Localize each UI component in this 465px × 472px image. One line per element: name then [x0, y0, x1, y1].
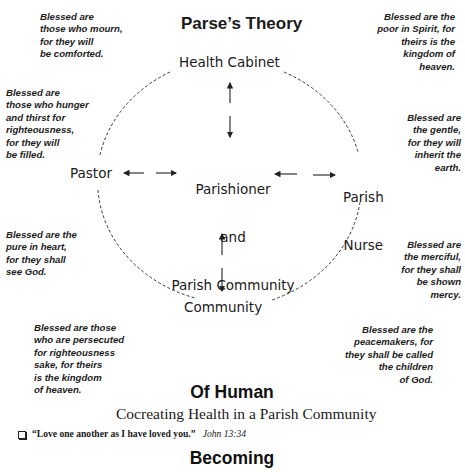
beatitude-poor-in-spirit: Blessed are the poor in Spirit, for thei… — [377, 11, 455, 73]
node-center-line-3: Parish Community — [164, 277, 302, 293]
scripture-quote: “Love one another as I have loved you.” — [32, 428, 195, 439]
beatitude-mourn: Blessed are those who mourn, for they wi… — [40, 11, 123, 61]
node-parish-nurse: Parish Nurse — [343, 157, 384, 269]
beatitude-merciful: Blessed are the merciful, for they shall… — [401, 239, 461, 301]
beatitude-peacemakers: Blessed are the peacemakers, for they sh… — [345, 324, 433, 386]
scripture-quote-row: “Love one another as I have loved you.” … — [18, 428, 246, 439]
subtitle-line-1: Of Human — [168, 381, 296, 403]
checkbox-icon[interactable] — [18, 431, 26, 439]
node-parishioner-community: Parishioner and Parish Community — [164, 149, 302, 309]
beatitude-hunger: Blessed are those who hunger and thirst … — [6, 87, 89, 161]
subtitle-line-2: Becoming — [168, 447, 296, 469]
node-right-line-1: Parish — [343, 189, 384, 205]
scripture-reference: John 13:34 — [203, 428, 246, 439]
beatitude-persecuted: Blessed are those who are persecuted for… — [34, 322, 124, 396]
node-center-line-2: and — [164, 229, 302, 245]
node-center-line-1: Parishioner — [164, 181, 302, 197]
beatitude-pure-in-heart: Blessed are the pure in heart, for they … — [6, 229, 77, 279]
node-health-cabinet: Health Cabinet — [179, 54, 280, 70]
page-title: Parse’s Theory — [181, 14, 302, 34]
footer-title: Cocreating Health in a Parish Community — [116, 405, 376, 423]
node-community: Community — [184, 299, 262, 315]
node-right-line-2: Nurse — [343, 237, 384, 253]
beatitude-gentle: Blessed are the gentle, for they will in… — [407, 112, 461, 174]
node-pastor: Pastor — [70, 165, 112, 181]
